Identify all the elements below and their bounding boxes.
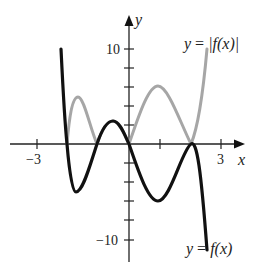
- f-annotation-fn: f(x): [210, 240, 232, 257]
- f-annotation-y: y: [186, 240, 193, 257]
- x-axis-label: x: [238, 152, 245, 168]
- x-tick-label-3: 3: [217, 153, 224, 167]
- f-annotation-eq: =: [197, 240, 206, 257]
- y-tick-label-10: 10: [106, 43, 120, 57]
- y-axis-arrow-icon: [125, 15, 134, 26]
- abs-f-annotation-fn: |f(x)|: [208, 35, 239, 52]
- x-axis-arrow-icon: [234, 140, 245, 149]
- y-tick-label-neg10: −10: [96, 234, 118, 248]
- y-axis-label: y: [135, 12, 142, 28]
- f-annotation: y = f(x): [186, 241, 232, 257]
- abs-f-annotation-eq: =: [195, 35, 204, 52]
- x-tick-label-neg3: −3: [26, 153, 41, 167]
- abs-f-curve: [67, 49, 207, 144]
- abs-f-annotation-y: y: [184, 35, 191, 52]
- abs-f-annotation: y = |f(x)|: [184, 36, 239, 52]
